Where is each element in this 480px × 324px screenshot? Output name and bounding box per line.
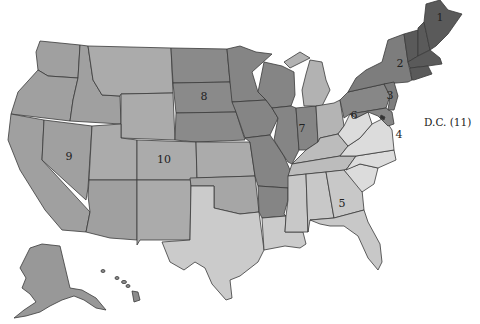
state-hawaii[interactable] (101, 270, 140, 303)
state-connecticut[interactable] (410, 66, 432, 80)
region-label-5: 5 (339, 197, 346, 210)
state-arkansas[interactable] (258, 186, 288, 218)
state-maine[interactable] (424, 0, 462, 50)
region-label-10: 10 (157, 153, 171, 166)
state-north-dakota[interactable] (171, 48, 230, 83)
region-label-7: 7 (299, 122, 306, 135)
dc-label: D.C. (11) (424, 116, 471, 128)
region-label-6: 6 (351, 109, 358, 122)
state-alaska[interactable] (14, 244, 106, 318)
region-label-4: 4 (396, 128, 403, 141)
region-label-3: 3 (387, 89, 394, 102)
state-arizona[interactable] (86, 180, 137, 240)
us-regions-map: 1 2 3 4 5 6 7 8 9 10 D.C. (11) (0, 0, 480, 324)
region-label-1: 1 (437, 11, 444, 24)
state-mississippi[interactable] (285, 174, 308, 232)
state-florida[interactable] (310, 210, 382, 270)
region-label-2: 2 (397, 57, 404, 70)
region-label-9: 9 (66, 150, 73, 163)
state-kansas[interactable] (196, 142, 255, 178)
state-new-mexico[interactable] (137, 180, 191, 245)
region-label-8: 8 (201, 90, 208, 103)
state-nebraska[interactable] (175, 112, 245, 142)
state-montana[interactable] (88, 46, 173, 96)
state-oregon[interactable] (11, 70, 78, 121)
state-wyoming[interactable] (121, 93, 175, 140)
